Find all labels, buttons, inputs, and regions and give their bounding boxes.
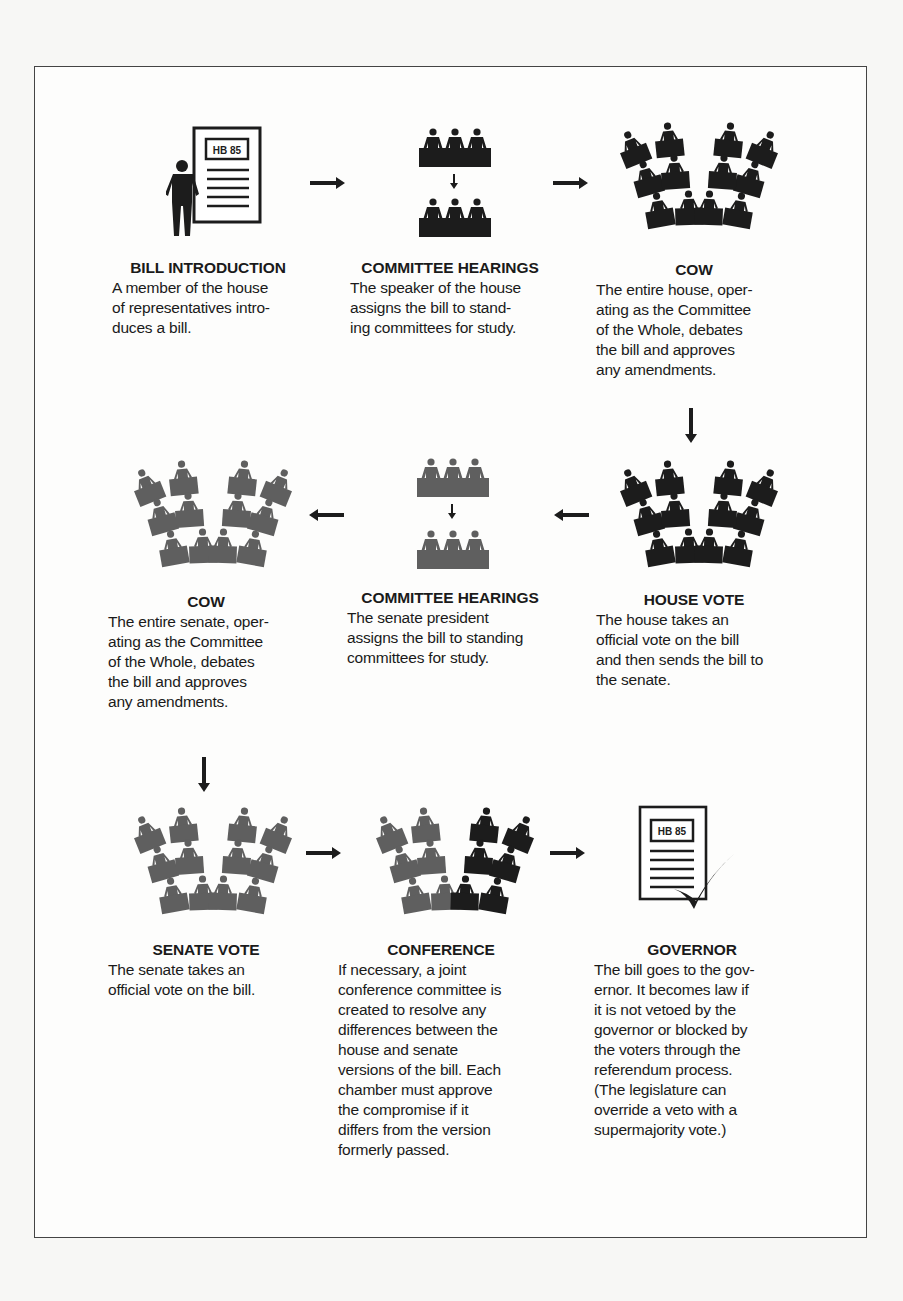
member-seat-icon [236, 875, 270, 914]
arrow-left-icon [308, 508, 344, 522]
step-title: HOUSE VOTE [596, 590, 792, 610]
member-seat-icon [227, 459, 258, 496]
member-seat-icon [260, 464, 298, 507]
member-seat-icon [708, 491, 738, 527]
step-title: COW [596, 260, 792, 280]
step-title: COMMITTEE HEARINGS [347, 588, 553, 608]
step-title: CONFERENCE [338, 940, 544, 960]
step-title: COW [108, 592, 304, 612]
member-seat-icon [713, 121, 744, 158]
conference-chamber-icon [370, 797, 540, 922]
step-title: SENATE VOTE [108, 940, 304, 960]
member-seat-icon [450, 875, 479, 911]
signed-bill-checkmark-icon: HB 85 [638, 805, 738, 923]
member-seat-icon [227, 806, 258, 843]
senate-chamber-icon [128, 797, 298, 922]
member-seat-icon [167, 459, 198, 496]
arrow-down-icon [684, 408, 698, 444]
bill-label: HB 85 [658, 826, 687, 837]
arrow-right-icon [553, 176, 589, 190]
member-seat-icon [370, 811, 408, 854]
arrow-left-icon [553, 508, 589, 522]
member-seat-icon [722, 528, 756, 567]
step-description: The entire house, oper- ating as the Com… [596, 280, 792, 380]
member-seat-icon [708, 153, 738, 189]
step-description: The speaker of the house assigns the bil… [350, 278, 550, 338]
member-seat-icon [156, 528, 190, 567]
step-title: COMMITTEE HEARINGS [350, 258, 550, 278]
member-seat-icon [174, 838, 204, 874]
member-seat-icon [416, 838, 446, 874]
step-title: GOVERNOR [594, 940, 790, 960]
member-seat-icon [642, 190, 676, 229]
member-seat-icon [167, 806, 198, 843]
step-title: BILL INTRODUCTION [112, 258, 304, 278]
member-seat-icon [222, 838, 252, 874]
step-description: The bill goes to the gov- ernor. It beco… [594, 960, 806, 1140]
member-seat-icon [469, 806, 500, 843]
house-chamber-icon [614, 112, 784, 237]
step-description: A member of the house of representatives… [112, 278, 304, 338]
senate-committee-icon [415, 458, 491, 570]
member-seat-icon [642, 528, 676, 567]
member-seat-icon [502, 811, 540, 854]
member-seat-icon [694, 528, 723, 564]
member-seat-icon [236, 528, 270, 567]
house-chamber-icon [614, 450, 784, 575]
senate-chamber-icon [128, 450, 298, 575]
member-seat-icon [614, 464, 652, 507]
member-seat-icon [128, 464, 166, 507]
arrow-right-icon [550, 846, 586, 860]
arrow-down-icon [197, 757, 211, 793]
member-seat-icon [260, 811, 298, 854]
member-seat-icon [694, 190, 723, 226]
member-seat-icon [128, 811, 166, 854]
member-seat-icon [746, 464, 784, 507]
step-description: The senate takes an official vote on the… [108, 960, 304, 1000]
member-seat-icon [653, 121, 684, 158]
step-description: If necessary, a joint conference committ… [338, 960, 552, 1160]
person-with-bill-icon: HB 85 [166, 126, 266, 238]
member-seat-icon [398, 875, 432, 914]
member-seat-icon [653, 459, 684, 496]
arrow-right-icon [306, 846, 342, 860]
step-description: The entire senate, oper- ating as the Co… [108, 612, 304, 712]
member-seat-icon [660, 491, 690, 527]
step-description: The house takes an official vote on the … [596, 610, 806, 690]
member-seat-icon [464, 838, 494, 874]
member-seat-icon [478, 875, 512, 914]
member-seat-icon [156, 875, 190, 914]
member-seat-icon [746, 126, 784, 169]
member-seat-icon [614, 126, 652, 169]
member-seat-icon [713, 459, 744, 496]
step-description: The senate president assigns the bill to… [347, 608, 557, 668]
member-seat-icon [222, 491, 252, 527]
house-committee-icon [417, 128, 493, 240]
arrow-right-icon [310, 176, 346, 190]
member-seat-icon [660, 153, 690, 189]
member-seat-icon [174, 491, 204, 527]
bill-label: HB 85 [213, 145, 242, 156]
member-seat-icon [208, 875, 237, 911]
member-seat-icon [409, 806, 440, 843]
member-seat-icon [208, 528, 237, 564]
member-seat-icon [722, 190, 756, 229]
